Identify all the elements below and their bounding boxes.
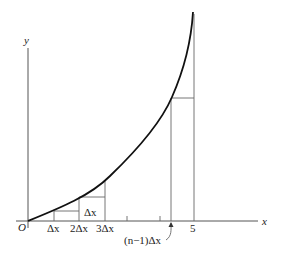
origin-label: O [18,221,26,233]
function-curve [28,12,193,221]
rectangle-width-label: Δx [84,206,97,218]
rectangle-1 [54,211,79,221]
inscribed-rectangles [54,14,194,221]
tick-label-dx: Δx [47,222,60,234]
tick-label-n-minus-1-dx: (n−1)Δx [124,234,162,247]
arrow-head-icon [169,222,174,227]
tick-label-2dx: 2Δx [70,222,89,234]
tick-label-3dx: 3Δx [96,222,115,234]
riemann-sum-diagram: y x O Δx 2Δx 3Δx 5 Δx (n−1)Δx [0,0,288,254]
x-axis-label: x [261,215,267,227]
tick-label-5: 5 [190,222,196,234]
y-axis-label: y [23,34,29,46]
